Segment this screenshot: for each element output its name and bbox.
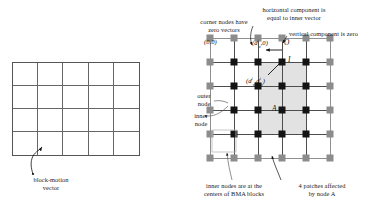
outer-node (231, 155, 238, 162)
horizontal-component-annotation: horizontal component is equal to inner v… (246, 6, 342, 21)
bma-cell (38, 86, 63, 109)
bma-cell (38, 132, 63, 155)
inner-vector-label: (dix,diy) (246, 76, 265, 87)
inner-node (231, 83, 238, 90)
outer-node (327, 59, 334, 66)
inner-node-i (279, 59, 286, 66)
bma-cell (114, 132, 139, 155)
inner-node (255, 107, 262, 114)
outer-node (327, 131, 334, 138)
bma-cell (114, 109, 139, 132)
bma-cell-with-motion-vector (13, 132, 38, 155)
outer-node (303, 155, 310, 162)
inner-vector-sup2: i (260, 76, 261, 81)
outer-node (279, 155, 286, 162)
mesh-edge-v (258, 38, 259, 158)
figure-canvas: block-motion vector (0, 0, 380, 222)
inner-node (255, 59, 262, 66)
inner-node (279, 83, 286, 90)
inner-node (231, 59, 238, 66)
mesh-edge-h (210, 110, 330, 111)
bma-cell (63, 132, 88, 155)
mesh-edge-h (210, 158, 330, 159)
bma-cell (89, 86, 114, 109)
mesh-edge-h (210, 134, 330, 135)
node-a-label: A (272, 104, 277, 113)
outer-node (327, 155, 334, 162)
bma-cell (89, 109, 114, 132)
outer-node (207, 131, 214, 138)
mesh-edge-h (210, 38, 330, 39)
bma-cell (38, 63, 63, 86)
bma-cell (89, 63, 114, 86)
outer-node-annotation: outer node (189, 92, 219, 107)
outer-node (207, 155, 214, 162)
outer-node (255, 155, 262, 162)
block-motion-vector-caption: block-motion vector (8, 176, 94, 191)
inner-node (303, 131, 310, 138)
inner-node (231, 131, 238, 138)
outer-node (327, 83, 334, 90)
inner-node (279, 131, 286, 138)
mesh-edge-v (234, 38, 235, 158)
outer-node (207, 59, 214, 66)
inner-node (303, 83, 310, 90)
mesh-edge-v (282, 38, 283, 158)
outer-node (231, 35, 238, 42)
bma-cell (13, 109, 38, 132)
vertical-component-annotation: vertical component is zero (289, 30, 379, 38)
block-motion-vector-origin-dot (32, 173, 34, 175)
inner-node (303, 59, 310, 66)
bma-cell (63, 86, 88, 109)
bma-cell (63, 63, 88, 86)
outer-vector-tail: ,0) (261, 39, 268, 46)
patches-affected-annotation: 4 patches affected by node A (282, 182, 362, 197)
bma-block-grid (12, 62, 140, 156)
mesh-edge-h (210, 86, 330, 87)
bma-cell (38, 109, 63, 132)
bma-cell (63, 109, 88, 132)
inner-nodes-centers-annotation: inner nodes are at the centers of BMA bl… (190, 182, 278, 197)
bma-cell (13, 86, 38, 109)
outer-vector-label: (dix,0) (252, 38, 268, 49)
bma-cell (114, 63, 139, 86)
mesh-edge-v (306, 38, 307, 158)
bma-cell (89, 132, 114, 155)
origin-label: (0,0) (204, 38, 217, 45)
node-i-label: I (288, 55, 290, 64)
inner-node (231, 107, 238, 114)
mesh-edge-h (210, 62, 330, 63)
inner-node-annotation: inner node (186, 112, 216, 127)
node-o-label: O (284, 38, 289, 47)
outer-node (327, 107, 334, 114)
inner-node (303, 107, 310, 114)
control-grid-mesh (196, 24, 378, 184)
bma-cell (114, 86, 139, 109)
bma-cell (13, 63, 38, 86)
inner-vector-sup1: i (252, 76, 253, 81)
mesh-edge-v (330, 38, 331, 158)
inner-vector-close: ) (263, 77, 265, 84)
outer-node (207, 83, 214, 90)
inner-node-a (279, 107, 286, 114)
outer-vector-sup: i (258, 38, 259, 43)
inner-node (255, 131, 262, 138)
